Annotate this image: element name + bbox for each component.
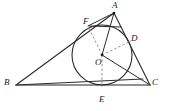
label-point-f: F [83, 17, 89, 26]
label-point-e: E [99, 95, 105, 104]
label-point-b: B [4, 78, 10, 87]
cevian-bo-line [16, 79, 143, 85]
label-point-d: D [131, 34, 138, 43]
cevian-ao-line [102, 13, 114, 55]
chord-f-horizontal-line [89, 26, 121, 27]
chord-fa-line [88, 13, 114, 26]
point-o-dot [101, 54, 104, 57]
radius-od-line [102, 41, 131, 55]
point-a-dot [113, 12, 116, 15]
geometry-figure: A B C O D E F [0, 0, 169, 111]
label-point-c: C [152, 78, 158, 87]
label-point-o: O [95, 58, 102, 67]
radius-of-line [89, 28, 102, 55]
label-point-a: A [112, 1, 118, 10]
